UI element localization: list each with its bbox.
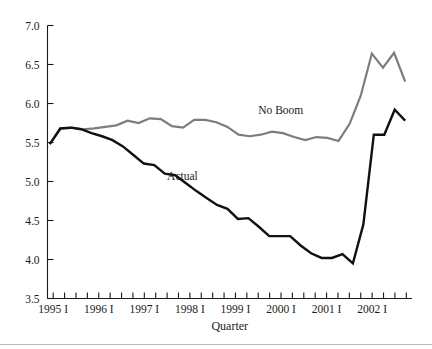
y-tick-label: 6.0	[25, 98, 40, 110]
x-axis: 1995 I1996 I1997 I1998 I1999 I2000 I2001…	[38, 293, 412, 315]
x-tick-label: 1997 I	[129, 303, 159, 315]
series-line-no-boom	[50, 53, 405, 144]
series-annotation-actual: Actual	[167, 170, 198, 182]
x-tick-label: 1998 I	[175, 303, 205, 315]
x-tick-label: 1995 I	[38, 303, 68, 315]
x-tick-label: 2000 I	[266, 303, 296, 315]
y-axis: 3.54.04.55.05.56.06.57.0	[25, 20, 53, 305]
y-tick-label: 4.0	[25, 254, 40, 266]
axis-titles: Quarter	[211, 319, 248, 333]
x-tick-label: 1996 I	[84, 303, 114, 315]
x-axis-title: Quarter	[211, 319, 248, 333]
y-tick-label: 4.5	[25, 215, 40, 227]
y-tick-label: 6.5	[25, 59, 40, 71]
chart-container: 3.54.04.55.05.56.06.57.0 1995 I1996 I199…	[0, 0, 432, 349]
line-chart: 3.54.04.55.05.56.06.57.0 1995 I1996 I199…	[0, 0, 432, 349]
y-tick-label: 5.5	[25, 137, 40, 149]
y-tick-label: 7.0	[25, 20, 40, 32]
x-tick-label: 2001 I	[312, 303, 342, 315]
series-lines	[50, 53, 405, 264]
series-annotations: No BoomActual	[167, 104, 303, 182]
x-tick-label: 1999 I	[221, 303, 251, 315]
series-annotation-no-boom: No Boom	[258, 104, 303, 116]
y-tick-label: 5.0	[25, 176, 40, 188]
x-tick-label: 2002 I	[357, 303, 387, 315]
series-line-actual	[50, 110, 405, 264]
